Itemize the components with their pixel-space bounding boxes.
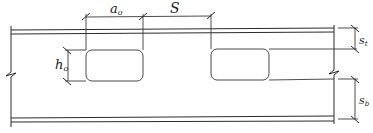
label-s-b: sb [359,94,370,108]
top-flange [11,28,334,34]
label-s-t: st [359,34,368,48]
dimension-line-sb [351,76,359,123]
right-extension-lines [269,28,358,119]
label-h-o: ho [55,57,68,73]
dimension-extension-lines [86,14,211,50]
dimension-line-ao-s [82,12,215,20]
beam-diagram: ao S ho st sb [0,0,373,133]
web-opening-2 [211,49,269,80]
left-break-line [6,26,16,127]
bottom-flange [11,116,334,122]
label-s-spacing: S [170,0,180,16]
label-a-o: ao [110,1,123,17]
web-opening-1 [86,50,143,81]
right-break-line [329,25,339,124]
